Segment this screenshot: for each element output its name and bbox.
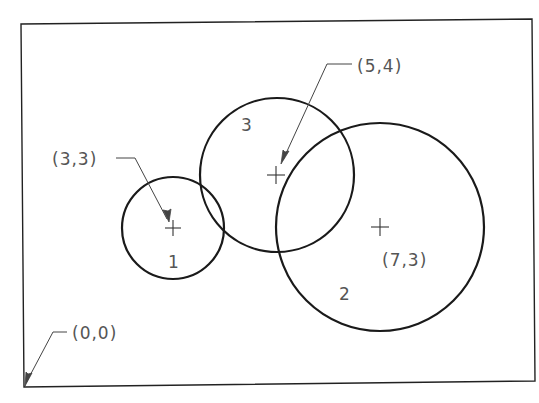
circle-2-center-label: (7,3) [382, 250, 427, 270]
origin-label: (0,0) [72, 323, 117, 343]
circle-coordinates-diagram: (0,0) (3,3) (5,4) (7,3) 1 2 3 [0, 0, 539, 403]
circle-3-number: 3 [241, 115, 252, 135]
center-mark-circle-2 [371, 218, 389, 236]
circle-1-number: 1 [168, 252, 179, 272]
arrowhead-icon [281, 150, 289, 164]
leader-5-4 [281, 64, 352, 164]
circle-1-center-label: (3,3) [52, 149, 97, 169]
center-mark-circle-3 [267, 166, 285, 184]
arrowhead-icon [25, 372, 32, 386]
center-mark-circle-1 [165, 220, 181, 236]
leader-origin [25, 332, 67, 386]
arrowhead-icon [163, 209, 171, 222]
circle-3-center-label: (5,4) [357, 56, 402, 76]
circle-2-number: 2 [339, 284, 350, 304]
